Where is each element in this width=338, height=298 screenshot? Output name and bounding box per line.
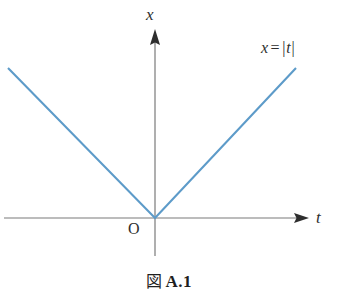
curve-label-equals: = — [268, 39, 281, 56]
curve-label-bar-close: | — [291, 39, 296, 56]
axis-label-horizontal: t — [316, 209, 321, 226]
figure-caption-number: A.1 — [165, 272, 192, 291]
figure-caption: 図A.1 — [0, 268, 338, 292]
figure-container: x t O x=|t| 図A.1 — [0, 0, 338, 298]
axis-label-vertical: x — [146, 6, 154, 23]
absolute-value-curve — [8, 68, 296, 218]
curve-equation-label: x=|t| — [261, 40, 296, 56]
origin-label: O — [128, 221, 140, 237]
figure-caption-kanji: 図 — [146, 272, 166, 291]
